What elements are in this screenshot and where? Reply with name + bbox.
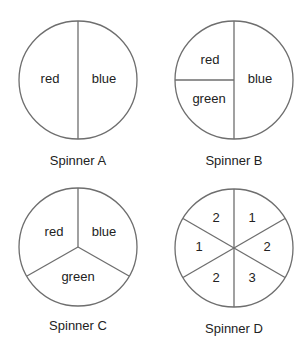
spinner-b-section-blue: blue	[248, 71, 273, 86]
spinner-b-section-green: green	[192, 91, 225, 106]
spinner-d: 2 1 2 3 2 1 Spinner D	[175, 189, 293, 336]
spinner-c-section-green: green	[61, 269, 94, 284]
spinner-d-section-lower-right: 3	[248, 270, 255, 285]
spinner-d-section-upper-right: 1	[248, 210, 255, 225]
spinner-a-section-red: red	[41, 71, 60, 86]
spinner-d-section-lower-left: 2	[212, 270, 219, 285]
spinner-c-section-red: red	[45, 224, 64, 239]
spinner-a: red blue Spinner A	[19, 21, 137, 168]
spinner-b-caption: Spinner B	[205, 153, 262, 168]
spinner-d-section-left: 1	[195, 239, 202, 254]
spinner-b-section-red: red	[201, 52, 220, 67]
spinners-diagram: red blue Spinner A red green blue Spinne…	[0, 0, 308, 350]
spinner-c: red blue green Spinner C	[19, 188, 137, 333]
spinner-a-caption: Spinner A	[50, 153, 107, 168]
spinner-c-caption: Spinner C	[49, 318, 107, 333]
spinner-d-section-right: 2	[263, 239, 270, 254]
spinner-b: red green blue Spinner B	[175, 21, 293, 168]
spinner-c-section-blue: blue	[92, 224, 117, 239]
spinner-d-section-upper-left: 2	[212, 210, 219, 225]
spinner-a-section-blue: blue	[92, 71, 117, 86]
spinner-d-caption: Spinner D	[205, 321, 263, 336]
